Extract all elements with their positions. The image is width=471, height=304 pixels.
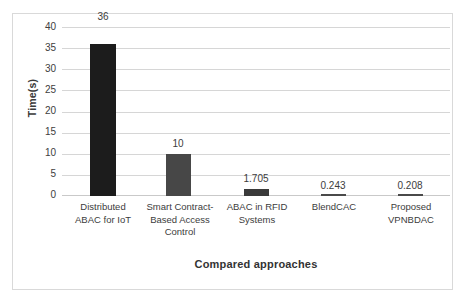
- category-line-2: Based Access: [139, 214, 221, 227]
- y-tick-40: 40: [30, 22, 56, 32]
- plot-area: 36 10 1.705 0.243 0.208: [62, 27, 450, 196]
- category-label-distributed-abac-for-iot: Distributed ABAC for IoT: [62, 201, 144, 226]
- bar-smart-contract-based-access-control[interactable]: [166, 154, 191, 196]
- y-tick-25: 25: [30, 85, 56, 95]
- category-line-1: Smart Contract-: [139, 201, 221, 214]
- bar-blendcac[interactable]: [321, 194, 346, 196]
- y-tick-0: 0: [30, 190, 56, 200]
- x-axis-category-labels: Distributed ABAC for IoT Smart Contract-…: [62, 201, 450, 251]
- y-tick-10: 10: [30, 148, 56, 158]
- bar-chart: Time(s) 40 35 30 25 20 15 10 5 0 36 10 1…: [0, 0, 471, 304]
- chart-frame-left-border: [12, 13, 13, 290]
- category-line-1: BlendCAC: [293, 201, 375, 214]
- chart-frame-bottom-border: [12, 289, 453, 290]
- y-axis-tick-labels: 40 35 30 25 20 15 10 5 0: [26, 27, 56, 196]
- bar-abac-in-rfid-systems[interactable]: [244, 189, 269, 196]
- bar-value-label-distributed-abac-for-iot: 36: [79, 11, 127, 22]
- y-tick-15: 15: [30, 127, 56, 137]
- category-label-smart-contract-based-access-control: Smart Contract- Based Access Control: [139, 201, 221, 239]
- gridline-10: [62, 154, 450, 155]
- bar-proposed-vpnbdac[interactable]: [398, 194, 423, 196]
- x-axis-title: Compared approaches: [62, 258, 450, 270]
- category-line-1: Proposed: [370, 201, 452, 214]
- bar-value-label-proposed-vpnbdac: 0.208: [386, 180, 434, 191]
- category-label-blendcac: BlendCAC: [293, 201, 375, 214]
- gridline-40: [62, 27, 450, 28]
- y-tick-20: 20: [30, 106, 56, 116]
- bar-value-label-blendcac: 0.243: [309, 180, 357, 191]
- y-tick-5: 5: [30, 169, 56, 179]
- gridline-20: [62, 112, 450, 113]
- chart-frame-right-border: [452, 13, 453, 290]
- category-line-3: Control: [139, 226, 221, 239]
- category-line-1: ABAC in RFID: [216, 201, 298, 214]
- bar-value-label-smart-contract-based-access-control: 10: [154, 138, 202, 149]
- category-label-abac-in-rfid-systems: ABAC in RFID Systems: [216, 201, 298, 226]
- gridline-35: [62, 48, 450, 49]
- gridline-15: [62, 133, 450, 134]
- category-line-1: Distributed: [62, 201, 144, 214]
- y-tick-35: 35: [30, 43, 56, 53]
- gridline-30: [62, 69, 450, 70]
- y-tick-30: 30: [30, 64, 56, 74]
- gridline-25: [62, 90, 450, 91]
- category-line-2: Systems: [216, 214, 298, 227]
- category-label-proposed-vpnbdac: Proposed VPNBDAC: [370, 201, 452, 226]
- category-line-2: ABAC for IoT: [62, 214, 144, 227]
- category-line-2: VPNBDAC: [370, 214, 452, 227]
- bar-value-label-abac-in-rfid-systems: 1.705: [232, 173, 280, 184]
- bar-distributed-abac-for-iot[interactable]: [90, 44, 116, 196]
